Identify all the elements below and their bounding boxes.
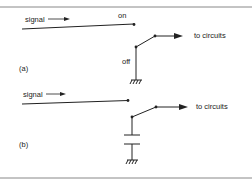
ground-icon xyxy=(126,160,138,164)
panel-label: (a) xyxy=(19,64,29,73)
on-contact xyxy=(133,23,136,26)
signal-arrow-icon xyxy=(48,17,70,21)
switch-arm xyxy=(136,36,155,47)
signal-label: signal xyxy=(25,15,45,24)
output-arrow-icon xyxy=(174,33,183,39)
switch-diagram: signal on (a) off to circuits signal xyxy=(0,0,252,183)
ground-icon xyxy=(130,80,142,84)
panel-b: signal (b) to circuits xyxy=(19,90,228,164)
panel-label: (b) xyxy=(19,140,29,149)
switch-arm xyxy=(132,107,156,117)
signal-label: signal xyxy=(23,90,43,99)
on-label: on xyxy=(118,11,126,20)
signal-line xyxy=(22,24,134,29)
capacitor-icon xyxy=(124,117,140,160)
signal-arrow-icon xyxy=(46,92,66,96)
off-label: off xyxy=(122,57,131,66)
signal-line xyxy=(22,101,128,105)
panel-a: signal on (a) off to circuits xyxy=(19,11,226,84)
output-label: to circuits xyxy=(194,31,226,40)
output-label: to circuits xyxy=(196,102,228,111)
signal-contact xyxy=(127,99,130,102)
output-arrow-icon xyxy=(179,104,188,110)
